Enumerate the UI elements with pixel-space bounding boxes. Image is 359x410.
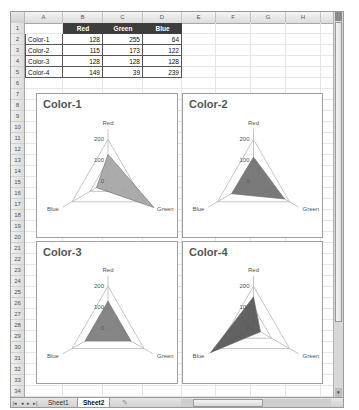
row-header-29[interactable]: 29 [11,331,24,342]
column-header-g[interactable]: G [251,12,286,23]
row-label-cell[interactable]: Color-1 [25,34,63,45]
value-cell-green[interactable]: 255 [103,34,143,45]
row-header-17[interactable]: 17 [11,199,24,210]
row-header-10[interactable]: 10 [11,122,24,133]
chart-color-3[interactable]: Color-30100200RedGreenBlue [36,241,178,384]
category-label-green: Green [303,353,320,359]
value-cell-red[interactable]: 128 [63,56,103,67]
header-cell-green[interactable]: Green [103,23,143,34]
row-header-21[interactable]: 21 [11,243,24,254]
row-header-30[interactable]: 30 [11,342,24,353]
sheet-tab-bar: |◂ ◂ ▸ ▸| Sheet1 Sheet2 ✎ [11,397,343,408]
category-label-red: Red [248,267,259,273]
value-cell-blue[interactable]: 239 [143,67,182,78]
radar-series-area[interactable] [85,301,131,341]
tab-sheet1[interactable]: Sheet1 [43,398,74,408]
axis-tick-label: 200 [94,283,105,289]
horizontal-scroll-thumb[interactable] [193,399,263,407]
row-header-15[interactable]: 15 [11,177,24,188]
header-cell-red[interactable]: Red [63,23,103,34]
chart-color-2[interactable]: Color-20100200RedGreenBlue [182,93,323,238]
row-header-2[interactable]: 2 [11,34,24,45]
row-label-cell[interactable]: Color-4 [25,67,63,78]
row-header-28[interactable]: 28 [11,320,24,331]
column-header-a[interactable]: A [25,12,63,23]
chart-color-4[interactable]: Color-40100200RedGreenBlue [182,241,323,384]
column-header-h[interactable]: H [286,12,321,23]
row-header-20[interactable]: 20 [11,232,24,243]
column-header-f[interactable]: F [216,12,251,23]
column-header-e[interactable]: E [182,12,216,23]
row-header-5[interactable]: 5 [11,67,24,78]
column-header-d[interactable]: D [143,12,182,23]
spreadsheet-window: ABCDEFGH 1234567891011121314151617181920… [10,11,344,408]
vertical-scrollbar[interactable]: ▾ [333,12,343,397]
scroll-down-button[interactable]: ▾ [335,388,342,397]
value-cell-green[interactable]: 173 [103,45,143,56]
value-cell-blue[interactable]: 122 [143,45,182,56]
row-header-18[interactable]: 18 [11,210,24,221]
row-header-31[interactable]: 31 [11,353,24,364]
column-header-b[interactable]: B [63,12,103,23]
row-header-33[interactable]: 33 [11,375,24,386]
gridline [25,385,333,386]
radar-plot: 0100200RedGreenBlue [37,242,179,385]
axis-tick-label: 200 [94,136,105,142]
prev-sheet-button[interactable]: ◂ [21,398,24,408]
horizontal-scrollbar[interactable] [181,399,331,407]
last-sheet-button[interactable]: ▸| [33,398,37,408]
row-header-22[interactable]: 22 [11,254,24,265]
row-header-3[interactable]: 3 [11,45,24,56]
row-header-11[interactable]: 11 [11,133,24,144]
row-header-32[interactable]: 32 [11,364,24,375]
next-sheet-button[interactable]: ▸ [27,398,30,408]
row-header-12[interactable]: 12 [11,144,24,155]
first-sheet-button[interactable]: |◂ [13,398,17,408]
header-cell-blue[interactable]: Blue [143,23,182,34]
row-header-8[interactable]: 8 [11,100,24,111]
radar-series-area[interactable] [96,154,153,207]
value-cell-red[interactable]: 128 [63,34,103,45]
row-header-24[interactable]: 24 [11,276,24,287]
row-header-1[interactable]: 1 [11,23,24,34]
row-header-26[interactable]: 26 [11,298,24,309]
insert-sheet-button[interactable]: ✎ [117,398,133,408]
column-header-c[interactable]: C [103,12,143,23]
axis-tick-label: 200 [239,283,250,289]
value-cell-blue[interactable]: 128 [143,56,182,67]
radar-series-area[interactable] [210,297,260,353]
row-header-23[interactable]: 23 [11,265,24,276]
radar-plot: 0100200RedGreenBlue [183,94,324,239]
row-header-16[interactable]: 16 [11,188,24,199]
row-header-13[interactable]: 13 [11,155,24,166]
row-header-4[interactable]: 4 [11,56,24,67]
value-cell-blue[interactable]: 64 [143,34,182,45]
row-header-27[interactable]: 27 [11,309,24,320]
value-cell-green[interactable]: 128 [103,56,143,67]
row-header-bar: 1234567891011121314151617181920212223242… [11,23,25,397]
row-header-25[interactable]: 25 [11,287,24,298]
row-header-6[interactable]: 6 [11,78,24,89]
chart-color-1[interactable]: Color-10100200RedGreenBlue [36,93,178,238]
tab-sheet2[interactable]: Sheet2 [77,398,110,408]
select-all-corner[interactable] [11,12,25,23]
value-cell-red[interactable]: 115 [63,45,103,56]
row-header-19[interactable]: 19 [11,221,24,232]
axis-tick-label: 200 [239,136,250,142]
value-cell-green[interactable]: 39 [103,67,143,78]
radar-plot: 0100200RedGreenBlue [37,94,179,239]
axis-tick-label: 100 [239,304,250,310]
row-header-7[interactable]: 7 [11,89,24,100]
split-handle[interactable] [335,12,342,21]
row-label-cell[interactable]: Color-2 [25,45,63,56]
category-label-green: Green [303,206,320,212]
row-header-14[interactable]: 14 [11,166,24,177]
value-cell-red[interactable]: 149 [63,67,103,78]
axis-tick-label: 100 [94,304,105,310]
category-label-red: Red [102,267,113,273]
row-label-cell[interactable]: Color-3 [25,56,63,67]
vertical-scroll-thumb[interactable] [335,22,342,322]
axis-tick-label: 100 [94,157,105,163]
row-header-9[interactable]: 9 [11,111,24,122]
row-header-34[interactable]: 34 [11,386,24,397]
